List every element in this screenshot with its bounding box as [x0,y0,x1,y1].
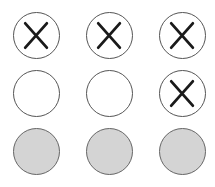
cell-r1-c1[interactable] [13,12,60,59]
cell-r2-c1[interactable] [13,70,60,117]
cell-r2-c2[interactable] [86,70,133,117]
cell-r1-c2[interactable] [86,12,133,59]
cell-r2-c3[interactable] [159,70,206,117]
cell-r1-c3[interactable] [159,12,206,59]
x-mark-icon [160,71,205,116]
cell-r3-c1[interactable] [13,128,60,175]
x-mark-icon [160,13,205,58]
x-mark-icon [87,13,132,58]
cell-r3-c3[interactable] [159,128,206,175]
x-mark-icon [14,13,59,58]
cell-r3-c2[interactable] [86,128,133,175]
